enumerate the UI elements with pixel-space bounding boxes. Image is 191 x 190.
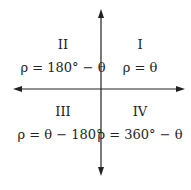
down-arrow-icon [98,167,104,176]
axes [0,0,191,190]
quadrant-i-formula: ρ = θ [123,60,158,75]
right-arrow-icon [176,86,185,92]
quadrant-iii-label: III [55,104,70,119]
quadrant-i-label: I [137,37,142,52]
reference-angle-diagram: II ρ = 180° − θ I ρ = θ III ρ = θ − 180°… [0,0,191,190]
quadrant-iv-label: IV [133,104,148,119]
up-arrow-icon [98,9,104,18]
quadrant-ii-formula: ρ = 180° − θ [20,60,105,75]
quadrant-iv-formula: ρ = 360° − θ [97,127,182,142]
quadrant-iii-formula: ρ = θ − 180° [17,127,102,142]
quadrant-ii-label: II [58,37,68,52]
left-arrow-icon [13,86,22,92]
